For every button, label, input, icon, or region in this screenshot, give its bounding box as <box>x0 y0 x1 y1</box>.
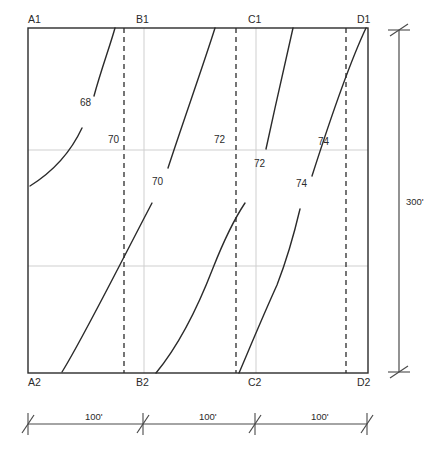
contour-74-lower <box>239 209 300 373</box>
contour-plan-svg <box>0 0 442 462</box>
station-label-c2: C2 <box>248 377 261 388</box>
contour-70-lower <box>62 203 152 372</box>
contour-68-upper <box>94 28 115 96</box>
station-label-a1: A1 <box>28 14 41 25</box>
horizontal-gridlines <box>28 150 368 266</box>
drawing-canvas: A1B1C1D1 A2B2C2D2 68707072727474 100'100… <box>0 0 442 462</box>
contour-74-upper <box>312 28 366 176</box>
contour-label-70-2: 70 <box>152 177 163 187</box>
contour-68-lower <box>30 128 82 186</box>
dimension-label-horizontal-0: 100' <box>85 412 103 422</box>
station-label-a2: A2 <box>28 377 41 388</box>
station-label-b2: B2 <box>136 377 149 388</box>
dimension-label-horizontal-1: 100' <box>199 412 217 422</box>
dashed-section-lines <box>124 28 346 373</box>
contour-label-72-3: 72 <box>214 135 225 145</box>
dimension-label-vertical: 300' <box>406 197 424 207</box>
contour-72-upper <box>266 28 293 149</box>
station-label-c1: C1 <box>248 14 261 25</box>
contour-72-lower <box>156 203 245 373</box>
contour-lines <box>30 28 366 373</box>
contour-70-upper <box>168 28 215 168</box>
station-label-d2: D2 <box>357 377 370 388</box>
contour-label-72-4: 72 <box>254 159 265 169</box>
contour-label-74-6: 74 <box>296 179 307 189</box>
station-label-b1: B1 <box>136 14 149 25</box>
dimension-label-horizontal-2: 100' <box>311 412 329 422</box>
vertical-gridlines <box>144 28 256 373</box>
station-label-d1: D1 <box>357 14 370 25</box>
contour-label-70-1: 70 <box>108 135 119 145</box>
contour-label-68-0: 68 <box>80 98 91 108</box>
contour-label-74-5: 74 <box>318 137 329 147</box>
